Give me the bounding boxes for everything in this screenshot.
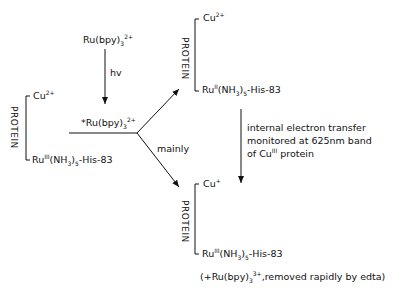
top-reagent: Ru(bpy)32+ bbox=[83, 34, 133, 45]
transfer-note-line3: of CuIII protein bbox=[247, 147, 372, 160]
transfer-note: internal electron transfer monitored at … bbox=[247, 121, 372, 160]
left-ru-label: RuIII(NH3)5-His-83 bbox=[32, 154, 113, 165]
top-right-ru-label: RuII(NH3)5-His-83 bbox=[202, 84, 281, 95]
top-right-cu-label: Cu2+ bbox=[203, 12, 225, 23]
branch-down-arrow bbox=[137, 133, 179, 187]
transfer-note-line2: monitored at 625nm band bbox=[247, 134, 372, 147]
left-protein-bracket bbox=[26, 96, 30, 160]
bottom-right-protein-bracket bbox=[195, 184, 199, 254]
top-right-protein-label: PROTEIN bbox=[180, 37, 190, 80]
branch-up-arrow bbox=[137, 89, 179, 133]
hv-label: hv bbox=[110, 67, 122, 78]
bottom-right-cu-label: Cu+ bbox=[203, 178, 221, 189]
bottom-right-ru-label: RuIII(NH3)5-His-83 bbox=[202, 248, 283, 259]
mainly-label: mainly bbox=[157, 143, 189, 154]
left-protein-label: PROTEIN bbox=[9, 106, 19, 149]
left-cu-label: Cu2+ bbox=[33, 90, 55, 101]
top-right-protein-bracket bbox=[195, 19, 199, 91]
transfer-note-line1: internal electron transfer bbox=[247, 121, 372, 134]
bottom-right-protein-label: PROTEIN bbox=[180, 200, 190, 243]
excited-state: *Ru(bpy)32+ bbox=[81, 117, 136, 128]
footnote: (+Ru(bpy)33+,removed rapidly by edta) bbox=[200, 271, 385, 282]
